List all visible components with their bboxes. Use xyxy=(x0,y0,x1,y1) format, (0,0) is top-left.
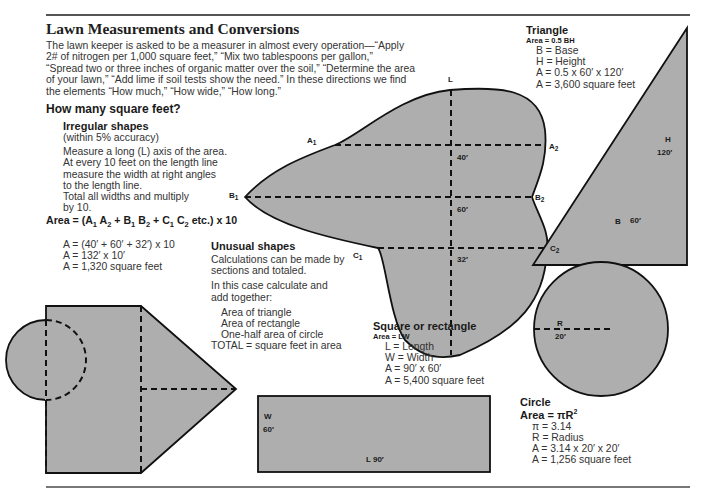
section-heading: How many square feet? xyxy=(46,102,181,116)
intro-line: “Spread two or three inches of organic m… xyxy=(46,63,426,74)
page-title: Lawn Measurements and Conversions xyxy=(46,20,299,38)
label-c2: C2 xyxy=(550,244,559,254)
label-b1: B1 xyxy=(229,191,238,201)
intro-line: the elements “How much,” “How wide,” “Ho… xyxy=(46,86,426,97)
circle-label-r-value: 20′ xyxy=(555,332,566,341)
circle-line: A = 1,256 square feet xyxy=(520,454,631,465)
triangle-line: B = Base xyxy=(526,45,635,56)
circle-line: A = 3.14 x 20′ x 20′ xyxy=(520,443,631,454)
irregular-instruction: by 10. xyxy=(63,202,227,213)
unusual-item: Area of triangle xyxy=(211,307,344,318)
unusual-line: add together: xyxy=(211,292,344,303)
label-l: L xyxy=(448,75,453,84)
intro-paragraph: The lawn keeper is asked to be a measure… xyxy=(46,40,426,97)
circle-label-r: R xyxy=(557,319,563,328)
unusual-line: In this case calculate and xyxy=(211,280,344,291)
rectangle-line: A = 90′ x 60′ xyxy=(373,363,484,374)
intro-line: of your lawn,” “Add lime if soil tests s… xyxy=(46,74,426,85)
irregular-calculation: A = (40′ + 60′ + 32′) x 10 A = 132′ x 10… xyxy=(63,239,175,273)
triangle-formula: Area = 0.5 BH xyxy=(526,36,635,45)
triangle-line: H = Height xyxy=(526,56,635,67)
unusual-section: Unusual shapes Calculations can be made … xyxy=(211,240,344,352)
triangle-label-h-value: 120′ xyxy=(657,148,672,157)
circle-line: R = Radius xyxy=(520,432,631,443)
calc-line: A = 1,320 square feet xyxy=(63,261,175,272)
rectangle-section: Square or rectangle Area = LW L = Length… xyxy=(373,320,484,386)
irregular-instruction: Measure a long (L) axis of the area. xyxy=(63,146,227,157)
rectangle-label-w-value: 60′ xyxy=(263,425,274,434)
triangle-line: A = 3,600 square feet xyxy=(526,79,635,90)
triangle-section: Triangle Area = 0.5 BH B = Base H = Heig… xyxy=(526,24,635,90)
unusual-line: Calculations can be made by xyxy=(211,254,344,265)
label-a2: A2 xyxy=(549,142,558,152)
rectangle-heading: Square or rectangle xyxy=(373,320,484,332)
rectangle-line: W = Width xyxy=(373,352,484,363)
label-c1: C1 xyxy=(353,251,362,261)
composite-half-circle xyxy=(6,320,46,400)
calc-line: A = (40′ + 60′ + 32′) x 10 xyxy=(63,239,175,250)
irregular-instruction: to the length line. xyxy=(63,180,227,191)
rectangle-formula: Area = LW xyxy=(373,332,484,341)
circle-line: π = 3.14 xyxy=(520,421,631,432)
triangle-heading: Triangle xyxy=(526,24,635,36)
triangle-label-b: B xyxy=(615,217,621,226)
unusual-line: sections and totaled. xyxy=(211,265,344,276)
rectangle-line: L = Length xyxy=(373,341,484,352)
triangle-label-b-value: 60′ xyxy=(630,216,641,225)
width-b-value: 60′ xyxy=(457,205,468,214)
irregular-instruction: Total all widths and multiply xyxy=(63,191,227,202)
circle-formula: Area = πR2 xyxy=(520,408,631,421)
rectangle-line: A = 5,400 square feet xyxy=(373,375,484,386)
irregular-heading: Irregular shapes xyxy=(63,120,227,132)
intro-line: 2# of nitrogen per 1,000 square feet,” “… xyxy=(46,51,426,62)
irregular-instruction: measure the width at right angles xyxy=(63,169,227,180)
calc-line: A = 132′ x 10′ xyxy=(63,250,175,261)
unusual-item: Area of rectangle xyxy=(211,318,344,329)
unusual-heading: Unusual shapes xyxy=(211,240,344,252)
irregular-section: Irregular shapes (within 5% accuracy) Me… xyxy=(63,120,227,213)
irregular-subheading: (within 5% accuracy) xyxy=(63,132,227,143)
width-c-value: 32′ xyxy=(457,255,468,264)
circle-heading: Circle xyxy=(520,396,631,408)
label-b2: B2 xyxy=(535,193,544,203)
unusual-total: TOTAL = square feet in area xyxy=(211,340,344,351)
label-a1: A1 xyxy=(307,136,316,146)
width-a-value: 40′ xyxy=(457,153,468,162)
triangle-line: A = 0.5 x 60′ x 120′ xyxy=(526,67,635,78)
rectangle-label-l: L 90′ xyxy=(366,455,384,464)
triangle-label-h: H xyxy=(665,135,671,144)
irregular-formula: Area = (A1 A2 + B1 B2 + C1 C2 etc.) x 10 xyxy=(46,214,237,229)
irregular-instruction: At every 10 feet on the length line xyxy=(63,157,227,168)
circle-section: Circle Area = πR2 π = 3.14 R = Radius A … xyxy=(520,396,631,465)
unusual-item: One-half area of circle xyxy=(211,329,344,340)
intro-line: The lawn keeper is asked to be a measure… xyxy=(46,40,426,51)
rectangle-label-w: W xyxy=(264,412,272,421)
